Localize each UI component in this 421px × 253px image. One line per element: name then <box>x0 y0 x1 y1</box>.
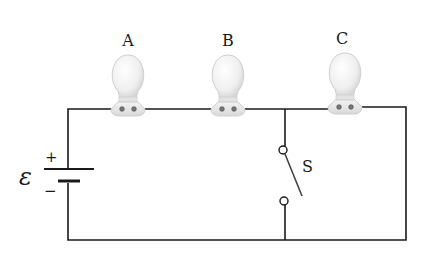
switch-label: S <box>302 157 313 176</box>
battery: ε + − <box>19 148 94 200</box>
plus-sign: + <box>45 148 58 166</box>
emf-label: ε <box>19 163 32 191</box>
circuit-diagram: ε + − S A B C <box>0 0 421 253</box>
bulb-a: A <box>111 31 145 116</box>
bulb-a-label: A <box>121 31 134 50</box>
bulb-b: B <box>211 31 245 116</box>
minus-sign: − <box>44 182 57 200</box>
wires <box>68 107 406 240</box>
bulb-b-label: B <box>222 31 234 50</box>
bulb-c-label: C <box>336 29 348 48</box>
bulb-c: C <box>328 29 362 114</box>
switch: S <box>279 146 313 205</box>
